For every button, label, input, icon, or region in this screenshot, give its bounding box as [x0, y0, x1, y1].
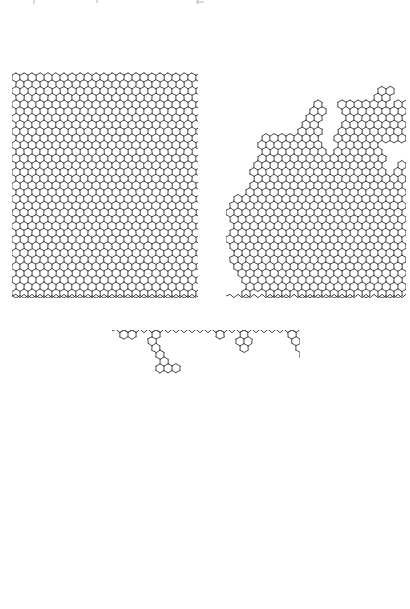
panel-c-lattice — [112, 330, 300, 609]
panel-b-hexagon-chains — [226, 86, 406, 298]
panel-c-substrate-line — [112, 330, 300, 333]
panel-b-porous-deposit — [226, 12, 406, 298]
panel-a-hexagon-chains — [12, 73, 198, 298]
panel-a-substrate-line — [12, 294, 196, 297]
crop-smudge-mark — [33, 0, 35, 4]
crop-smudge-mark — [96, 0, 98, 3]
cropped-caption-artifact — [0, 0, 410, 7]
crop-smudge-mark — [196, 0, 199, 4]
panel-c-dendritic-deposit — [112, 330, 300, 609]
panel-b-lattice — [226, 12, 406, 298]
figure-canvas — [0, 0, 410, 609]
panel-a-dense-deposit — [12, 12, 198, 298]
panel-a-lattice — [12, 12, 198, 298]
panel-c-hexagon-chains — [120, 330, 300, 373]
crop-smudge-mark — [198, 1, 204, 3]
